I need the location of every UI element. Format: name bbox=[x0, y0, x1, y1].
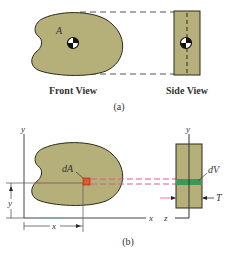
centroid-symbol-side bbox=[181, 38, 192, 49]
front-view-label: Front View bbox=[49, 85, 98, 96]
dA-label: dA bbox=[62, 163, 74, 174]
caption-a: (a) bbox=[113, 101, 124, 113]
centroid-diagram: A Front View Side View (a) y x dA bbox=[0, 0, 231, 262]
cross-section-area-shape bbox=[32, 143, 123, 206]
dV-label: dV bbox=[208, 164, 221, 175]
x-axis-label: x bbox=[148, 213, 153, 223]
figure-b: y x dA y x bbox=[6, 124, 223, 248]
area-label: A bbox=[55, 25, 63, 36]
x-dimension-label: x bbox=[51, 221, 56, 231]
caption-b: (b) bbox=[122, 236, 134, 248]
side-y-axis-label: y bbox=[185, 124, 190, 134]
y-dimension: y bbox=[6, 183, 24, 218]
z-axis-label: z bbox=[163, 213, 168, 223]
side-view-label: Side View bbox=[166, 85, 209, 96]
y-dimension-label: y bbox=[7, 198, 12, 208]
thickness-label: T bbox=[216, 192, 223, 203]
figure-a: A Front View Side View (a) bbox=[32, 11, 209, 113]
x-dimension: x bbox=[24, 221, 83, 231]
area-element-dA bbox=[83, 178, 90, 185]
centroid-symbol-front bbox=[68, 38, 79, 49]
y-axis-label: y bbox=[20, 124, 25, 134]
